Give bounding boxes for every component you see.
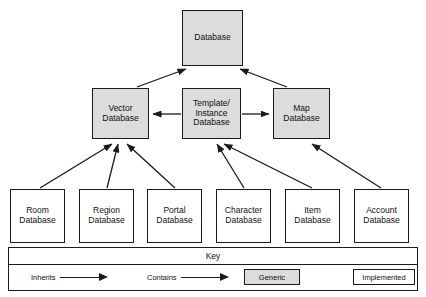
key-inherits-entry: Inherits (31, 265, 108, 289)
edge-item-to-template (224, 144, 312, 188)
edge-character-to-template (217, 144, 244, 188)
key-title: Key (9, 248, 417, 265)
edge-vector-to-database (137, 69, 186, 87)
node-account-database[interactable]: Account Database (354, 189, 409, 243)
node-map-database[interactable]: Map Database (273, 88, 330, 139)
edge-room-to-vector (40, 144, 112, 188)
key-body: Inherits Contains Generic Implemented (9, 265, 417, 289)
edge-region-to-vector (107, 144, 118, 188)
contains-arrow-icon (181, 273, 229, 281)
key-inherits-label: Inherits (31, 273, 56, 282)
node-region-database[interactable]: Region Database (79, 189, 134, 243)
edge-map-to-database (240, 69, 287, 87)
key-generic-swatch: Generic (244, 269, 300, 285)
node-portal-database[interactable]: Portal Database (147, 189, 202, 243)
edge-portal-to-vector (127, 144, 175, 188)
node-item-database[interactable]: Item Database (285, 189, 340, 243)
node-room-database[interactable]: Room Database (10, 189, 65, 243)
node-template-instance-database[interactable]: Template/ Instance Database (182, 88, 241, 139)
key-panel: Key Inherits Contains Generic Implemente… (8, 247, 418, 291)
edge-account-to-map (312, 144, 381, 188)
node-database[interactable]: Database (182, 10, 243, 66)
key-contains-entry: Contains (147, 265, 229, 289)
key-implemented-swatch: Implemented (353, 269, 415, 285)
node-character-database[interactable]: Character Database (216, 189, 271, 243)
database-architecture-diagram: Database Vector Database Template/ Insta… (0, 0, 426, 297)
key-contains-label: Contains (147, 273, 177, 282)
node-vector-database[interactable]: Vector Database (92, 88, 149, 139)
inherits-arrow-icon (60, 273, 108, 281)
